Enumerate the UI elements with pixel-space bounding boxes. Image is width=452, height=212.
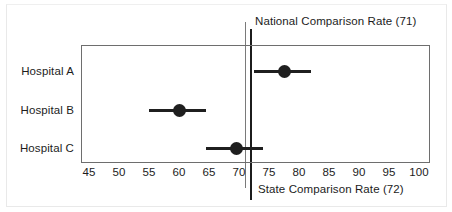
data-point-marker-hospital-c [230, 142, 243, 155]
x-axis-tick-60: 60 [173, 166, 186, 178]
x-axis-tick-45: 45 [83, 166, 96, 178]
x-axis-tick-95: 95 [383, 166, 396, 178]
state-comparison-rate-label: State Comparison Rate (72) [258, 183, 404, 195]
x-axis-tick-85: 85 [323, 166, 336, 178]
x-axis-tick-55: 55 [143, 166, 156, 178]
national-comparison-rate-label: National Comparison Rate (71) [255, 15, 416, 27]
x-axis-tick-50: 50 [113, 166, 126, 178]
x-axis-tick-70: 70 [233, 166, 246, 178]
data-point-marker-hospital-a [278, 65, 291, 78]
forest-plot-chart: National Comparison Rate (71) State Comp… [0, 0, 452, 212]
category-label-hospital-c: Hospital C [20, 142, 74, 154]
x-axis-tick-75: 75 [263, 166, 276, 178]
category-label-hospital-a: Hospital A [21, 65, 74, 77]
plot-area [81, 45, 430, 163]
x-axis-tick-65: 65 [203, 166, 216, 178]
x-axis-tick-80: 80 [293, 166, 306, 178]
category-label-hospital-b: Hospital B [21, 104, 74, 116]
x-axis-tick-90: 90 [353, 166, 366, 178]
data-point-marker-hospital-b [173, 104, 186, 117]
x-axis-tick-100: 100 [409, 166, 429, 178]
